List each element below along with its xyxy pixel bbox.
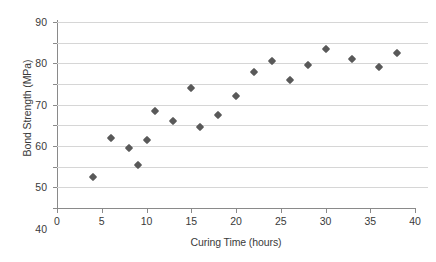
x-axis-tick [147, 208, 148, 213]
y-axis-tick: 90 [53, 22, 57, 23]
data-point [250, 67, 258, 75]
y-axis-tick: 20 [53, 167, 57, 168]
y-axis-tick-label: 90 [35, 16, 47, 28]
y-axis-tick: 70 [53, 63, 57, 64]
data-point [151, 107, 159, 115]
data-point [285, 76, 293, 84]
data-point [106, 133, 114, 141]
data-point [393, 49, 401, 57]
y-axis-tick: 80 [53, 43, 57, 44]
gridline-y [57, 105, 428, 106]
x-axis-tick-label: 20 [230, 215, 242, 227]
y-axis-tick: 60 [53, 84, 57, 85]
gridline-y [57, 167, 428, 168]
x-axis-tick-label: 25 [275, 215, 287, 227]
data-point [169, 117, 177, 125]
x-axis-tick-label: 5 [99, 215, 105, 227]
data-point [375, 63, 383, 71]
x-axis-tick [236, 208, 237, 213]
data-point [348, 55, 356, 63]
y-axis-tick-label: 80 [35, 57, 47, 69]
x-axis-tick-label: 30 [320, 215, 332, 227]
data-point [214, 111, 222, 119]
x-axis-tick-label: 40 [409, 215, 421, 227]
y-axis-tick: 50 [53, 105, 57, 106]
y-axis-tick-label: 40 [35, 223, 47, 235]
gridline-y [57, 187, 428, 188]
y-axis-tick-label: 70 [35, 99, 47, 111]
data-point [142, 136, 150, 144]
y-axis-tick: 30 [53, 146, 57, 147]
plot-area: 01020304050607080900510152025303540 [57, 22, 428, 208]
gridline-y [57, 43, 428, 44]
y-axis-tick: 40 [53, 125, 57, 126]
data-point [89, 173, 97, 181]
y-axis-tick-label: 50 [35, 181, 47, 193]
y-axis-tick: 10 [53, 187, 57, 188]
x-axis-tick [415, 208, 416, 213]
y-axis-title: Bond Strength (MPa) [18, 4, 36, 212]
data-point [187, 84, 195, 92]
x-axis-tick-label: 10 [141, 215, 153, 227]
x-axis-tick-label: 15 [185, 215, 197, 227]
y-axis-tick-label: 60 [35, 140, 47, 152]
x-axis-tick-label: 35 [364, 215, 376, 227]
x-axis-tick [370, 208, 371, 213]
data-point [232, 92, 240, 100]
x-axis-tick [102, 208, 103, 213]
x-axis-tick [57, 208, 58, 213]
scatter-chart: Bond Strength (MPa) 01020304050607080900… [0, 0, 436, 262]
gridline-y [57, 63, 428, 64]
data-point [303, 61, 311, 69]
gridline-y [57, 125, 428, 126]
x-axis-tick [326, 208, 327, 213]
data-point [321, 45, 329, 53]
gridline-y [57, 146, 428, 147]
x-axis-title: Curing Time (hours) [57, 236, 415, 248]
x-axis-tick [191, 208, 192, 213]
gridline-y [57, 22, 428, 23]
gridline-y [57, 84, 428, 85]
x-axis-tick [281, 208, 282, 213]
x-axis-tick-label: 0 [54, 215, 60, 227]
